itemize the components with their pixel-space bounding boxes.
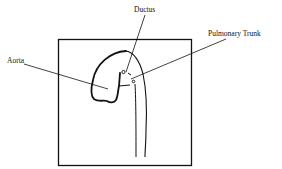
leader-aorta <box>24 64 108 89</box>
ductus-end-upper <box>122 70 125 73</box>
label-pulmonary-trunk: Pulmonary Trunk <box>208 30 261 38</box>
aorta-outline <box>92 51 126 102</box>
vessel-junction <box>119 85 130 86</box>
anatomy-diagram <box>0 0 282 169</box>
ductus-mark <box>128 73 131 75</box>
label-ductus: Ductus <box>134 6 155 14</box>
label-aorta: Aorta <box>7 57 24 65</box>
leader-pulmonary-trunk <box>131 39 226 79</box>
frame-box <box>59 40 192 166</box>
descending-vessel-inner <box>135 84 136 157</box>
ductus-end-lower <box>132 80 135 83</box>
leader-ductus <box>126 15 145 72</box>
